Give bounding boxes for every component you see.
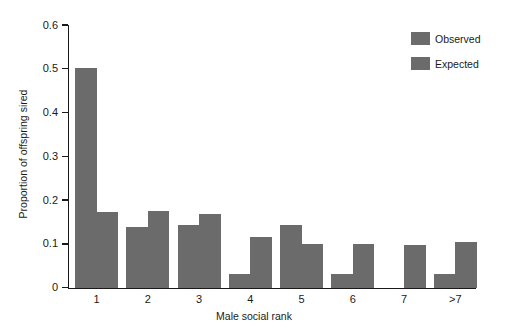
- legend-swatch-observed: [411, 32, 430, 45]
- legend-label-observed: Observed: [435, 33, 481, 45]
- bar-expected-rank-2: [148, 211, 170, 288]
- bar-expected-rank-4: [250, 237, 272, 288]
- x-axis-tick-label: 3: [176, 293, 222, 305]
- legend-label-expected: Expected: [435, 58, 479, 70]
- bar-observed-rank-6: [331, 274, 353, 288]
- y-axis-title: Proportion of offspring sired: [17, 54, 29, 254]
- legend-item-observed: Observed: [411, 32, 507, 45]
- bar-expected-rank-6: [353, 244, 375, 288]
- x-axis-tick-label: 1: [74, 293, 120, 305]
- y-axis-tick-label: 0: [16, 282, 58, 293]
- bar-observed-rank-2: [126, 227, 148, 288]
- x-axis-tick-label: 4: [227, 293, 273, 305]
- legend-item-expected: Expected: [411, 57, 507, 70]
- bar-expected-rank-7: [404, 245, 426, 288]
- x-axis-title: Male social rank: [0, 310, 508, 322]
- x-axis-tick-label: 5: [279, 293, 325, 305]
- chart-figure: 00.10.20.30.40.50.6 Proportion of offspr…: [0, 0, 508, 335]
- x-axis-tick-label: 2: [125, 293, 171, 305]
- bar-observed-rank-4: [229, 274, 251, 288]
- bar-observed-rank-5: [280, 225, 302, 288]
- legend-swatch-expected: [411, 57, 430, 70]
- bar-expected-rank-1: [97, 212, 119, 288]
- x-axis-tick-label: 6: [330, 293, 376, 305]
- bar-observed-rank-gt7: [434, 274, 456, 288]
- chart-legend: ObservedExpected: [411, 32, 507, 82]
- x-axis-tick-label: >7: [432, 293, 478, 305]
- bar-expected-rank-gt7: [455, 242, 477, 288]
- bar-expected-rank-5: [302, 244, 324, 288]
- x-axis-tick-label: 7: [381, 293, 427, 305]
- bar-observed-rank-1: [75, 68, 97, 288]
- bar-expected-rank-3: [199, 214, 221, 288]
- bar-observed-rank-3: [178, 225, 200, 288]
- y-axis-tick-label: 0.6: [16, 20, 58, 31]
